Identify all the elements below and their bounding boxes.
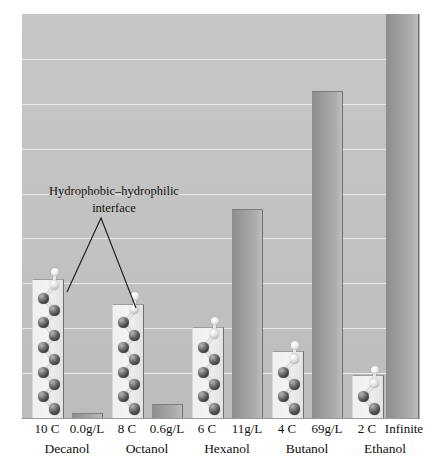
molecule-bond: [43, 347, 56, 361]
molecule-bond: [43, 396, 56, 410]
bar-69g-l: [312, 91, 343, 418]
molecule-bond: [363, 383, 376, 398]
carbon-atom: [278, 367, 289, 378]
annotation-line-2: interface: [26, 200, 202, 217]
x-axis-group-labels: DecanolOctanolHexanolButanolEthanol: [22, 441, 420, 461]
carbon-atom: [198, 391, 209, 402]
carbon-atom: [118, 342, 129, 353]
molecule-bond: [43, 371, 56, 385]
carbon-atom: [198, 367, 209, 378]
molecule-bond: [213, 321, 216, 334]
hydrogen-atom: [291, 341, 299, 349]
molecule-bond: [43, 322, 56, 336]
molecule-bond: [43, 297, 56, 311]
carbon-atom: [38, 391, 49, 402]
molecule-chain: [33, 280, 63, 418]
annotation-hydrophobic-hydrophilic-interface: Hydrophobic–hydrophilic interface: [26, 183, 202, 217]
group-label: Ethanol: [340, 441, 430, 457]
molecule-bond: [123, 371, 136, 385]
molecule-bond: [123, 347, 136, 361]
molecule-bond: [283, 396, 296, 410]
molecule-chain: [113, 305, 143, 418]
carbon-atom: [209, 403, 220, 414]
carbon-atom: [38, 342, 49, 353]
hydrogen-atom: [211, 317, 219, 325]
carbon-atom: [38, 367, 49, 378]
molecule-bond: [43, 359, 56, 373]
molecule-bond: [43, 310, 56, 324]
molecule-bond: [123, 359, 136, 373]
tick-label: Infinite: [364, 421, 437, 437]
molecule-bond: [203, 333, 216, 348]
molecule-bond: [283, 371, 296, 385]
molecule-bond: [43, 384, 56, 398]
molecule-bond: [203, 396, 216, 410]
carbon-atom: [289, 379, 300, 390]
carbon-atom: [289, 403, 300, 414]
oxygen-atom: [210, 329, 220, 339]
carbon-atom: [38, 293, 49, 304]
plot-right-edge: [419, 14, 420, 418]
molecule-bond: [293, 345, 296, 358]
bar-6-c: [192, 327, 224, 418]
molecule-chain: [353, 376, 383, 418]
bar-10-c: [32, 279, 64, 418]
group-label: Butanol: [262, 441, 352, 457]
carbon-atom: [129, 354, 140, 365]
molecule-bond: [203, 347, 216, 361]
molecule-bond: [133, 296, 136, 309]
carbon-atom: [369, 403, 380, 414]
carbon-atom: [278, 391, 289, 402]
carbon-atom: [49, 403, 60, 414]
group-label: Octanol: [102, 441, 192, 457]
annotation-line-1: Hydrophobic–hydrophilic: [26, 183, 202, 200]
x-axis-tick-labels: 10 C0.0g/L8 C0.6g/L6 C11g/L4 C69g/L2 CIn…: [22, 421, 420, 441]
molecule-chain: [273, 352, 303, 418]
bar-infinite: [386, 14, 419, 418]
molecule-bond: [373, 370, 376, 383]
carbon-atom: [129, 379, 140, 390]
molecule-bond: [203, 359, 216, 373]
molecule-bond: [283, 358, 296, 373]
carbon-atom: [129, 403, 140, 414]
molecule-bond: [123, 322, 136, 336]
molecule-bond: [123, 309, 136, 324]
molecule-bond: [53, 272, 56, 285]
group-label: Hexanol: [182, 441, 272, 457]
solubility-chart-figure: Hydrophobic–hydrophilic interface 10 C0.…: [0, 0, 437, 469]
molecule-chain: [193, 328, 223, 418]
bar-8-c: [112, 304, 144, 418]
carbon-atom: [38, 317, 49, 328]
hydrogen-atom: [371, 366, 379, 374]
bar-11g-l: [232, 209, 263, 418]
carbon-atom: [49, 379, 60, 390]
molecule-bond: [123, 384, 136, 398]
oxygen-atom: [130, 305, 140, 315]
carbon-atom: [198, 342, 209, 353]
bar-2-c: [352, 375, 384, 418]
molecule-bond: [43, 284, 56, 299]
carbon-atom: [129, 330, 140, 341]
carbon-atom: [118, 391, 129, 402]
molecule-bond: [43, 334, 56, 348]
carbon-atom: [209, 379, 220, 390]
carbon-atom: [49, 305, 60, 316]
molecule-bond: [203, 371, 216, 385]
carbon-atom: [49, 354, 60, 365]
group-label: Decanol: [22, 441, 112, 457]
carbon-atom: [49, 330, 60, 341]
x-axis-baseline: [22, 418, 420, 419]
oxygen-atom: [50, 280, 60, 290]
carbon-atom: [118, 317, 129, 328]
carbon-atom: [358, 391, 369, 402]
bar-4-c: [272, 351, 304, 418]
molecule-bond: [123, 396, 136, 410]
hydrogen-atom: [51, 268, 59, 276]
oxygen-atom: [290, 354, 300, 364]
molecule-bond: [283, 384, 296, 398]
molecule-bond: [363, 396, 376, 410]
bar-0-6g-l: [152, 404, 183, 418]
carbon-atom: [118, 367, 129, 378]
molecule-bond: [123, 334, 136, 348]
carbon-atom: [209, 354, 220, 365]
